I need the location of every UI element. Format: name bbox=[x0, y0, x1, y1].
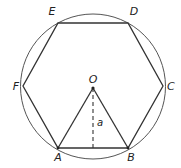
label-E: E bbox=[49, 5, 56, 18]
label-A: A bbox=[53, 151, 62, 164]
vertex-point-B bbox=[127, 147, 130, 150]
hexagon-diagram: O A B C D E F a bbox=[0, 0, 181, 168]
label-apothem-a: a bbox=[97, 117, 103, 128]
label-F: F bbox=[13, 80, 20, 93]
vertex-point-A bbox=[57, 147, 60, 150]
label-D: D bbox=[130, 5, 138, 18]
label-C: C bbox=[167, 80, 175, 93]
label-B: B bbox=[127, 151, 135, 164]
label-O: O bbox=[89, 73, 98, 86]
radius-OA bbox=[58, 88, 93, 148]
center-point bbox=[91, 86, 94, 89]
